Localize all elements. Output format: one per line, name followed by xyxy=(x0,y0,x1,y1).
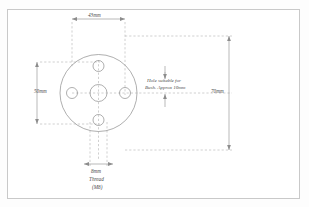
dimension-label-top: 43mm xyxy=(88,13,101,19)
dimension-label-right: 70mm xyxy=(211,89,224,95)
dimension-label-left: 50mm xyxy=(34,89,47,95)
arrowhead-bottom-left xyxy=(84,162,89,166)
arrowhead-left-bottom xyxy=(35,119,39,124)
arrowhead-top-left xyxy=(72,17,77,21)
arrowhead-top-right xyxy=(120,17,125,21)
arrowhead-left-top xyxy=(35,62,39,67)
note-hole-line1: Hole suitable for xyxy=(147,78,181,83)
arrowhead-note-up xyxy=(163,94,167,99)
arrowhead-bottom-right xyxy=(108,162,113,166)
bolt-hole-right xyxy=(120,88,131,99)
thread-label-size: 8mm xyxy=(91,169,101,175)
arrowhead-right-top xyxy=(227,36,231,41)
dimension-arrowheads xyxy=(35,17,231,166)
arrowhead-right-bottom xyxy=(227,145,231,150)
technical-drawing-svg xyxy=(0,0,309,207)
note-hole-line2: Bush. Approx 10mm xyxy=(145,85,185,90)
dimension-arrow-lines xyxy=(37,19,229,164)
dimension-construction-lines xyxy=(40,22,232,166)
thread-label-spec: (M8) xyxy=(92,185,102,191)
drawing-canvas: 43mm 50mm 70mm Hole suitable for Bush. A… xyxy=(0,0,309,207)
thread-label-type: Thread xyxy=(89,177,104,183)
